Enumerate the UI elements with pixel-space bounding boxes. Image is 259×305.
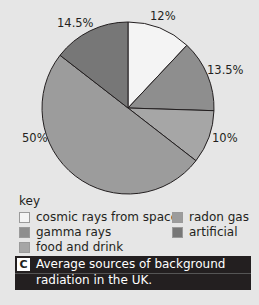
caption-text: Average sources of background radiation … — [36, 256, 246, 288]
label-artificial: 14.5% — [57, 16, 94, 30]
legend-label: gamma rays — [36, 225, 111, 239]
legend-item-cosmic: cosmic rays from space — [19, 210, 178, 224]
key-title: key — [19, 194, 40, 208]
label-radon: 50% — [22, 131, 48, 145]
legend-item-food: food and drink — [19, 240, 123, 254]
legend-item-radon: radon gas — [172, 210, 249, 224]
label-food: 10% — [212, 131, 238, 145]
swatch-radon — [172, 212, 183, 223]
label-gamma: 13.5% — [207, 63, 244, 77]
legend-item-artificial: artificial — [172, 225, 238, 239]
swatch-cosmic — [19, 212, 30, 223]
label-cosmic: 12% — [150, 9, 176, 23]
caption-letter: C — [17, 258, 30, 271]
figure-caption: C Average sources of background radiatio… — [15, 256, 251, 290]
swatch-artificial — [172, 227, 183, 238]
legend-label: radon gas — [189, 210, 249, 224]
legend-label: artificial — [189, 225, 238, 239]
legend-item-gamma: gamma rays — [19, 225, 111, 239]
swatch-food — [19, 242, 30, 253]
legend-label: food and drink — [36, 240, 123, 254]
swatch-gamma — [19, 227, 30, 238]
legend-label: cosmic rays from space — [36, 210, 178, 224]
